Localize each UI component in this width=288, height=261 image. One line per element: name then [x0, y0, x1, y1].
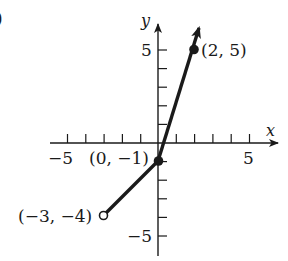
segment-left — [106, 161, 158, 213]
x-tick-label-neg5: −5 — [48, 148, 73, 168]
x-axis-label: x — [266, 121, 275, 140]
y-axis-label: y — [140, 11, 151, 30]
y-axis: 5 −5 y — [127, 11, 167, 256]
closed-point-top — [189, 45, 199, 55]
point-label-middle: (0, −1) — [89, 148, 149, 168]
closed-point-vertex — [154, 156, 164, 166]
point-label-top: (2, 5) — [201, 40, 247, 60]
point-label-bottom: (−3, −4) — [18, 206, 92, 226]
y-tick-label-neg5: −5 — [127, 226, 152, 246]
y-tick-label-5: 5 — [141, 40, 152, 60]
open-endpoint — [100, 212, 108, 220]
piecewise-function-graph: ) −5 5 x — [0, 0, 288, 261]
part-label-fragment: ) — [0, 8, 3, 28]
x-tick-label-5: 5 — [243, 148, 254, 168]
